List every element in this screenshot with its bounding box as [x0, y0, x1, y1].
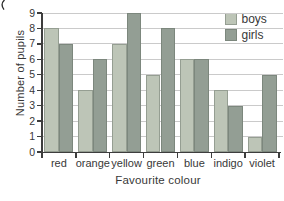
- bar-girls-orange: [93, 59, 108, 152]
- legend-swatch-girls: [225, 29, 237, 41]
- x-axis-title: Favourite colour: [42, 174, 274, 186]
- y-tick-label-4: 4: [16, 84, 35, 97]
- y-tick-1: [37, 136, 42, 137]
- y-tick-4: [37, 90, 42, 91]
- bar-boys-blue: [180, 59, 195, 152]
- bar-boys-yellow: [112, 44, 127, 152]
- y-tick-3: [37, 105, 42, 106]
- y-tick-5: [37, 74, 42, 75]
- legend-item-boys: boys: [225, 13, 267, 25]
- y-tick-label-1: 1: [16, 130, 35, 143]
- y-tick-8: [37, 28, 42, 29]
- gridline-9: [42, 13, 283, 14]
- bar-boys-indigo: [214, 90, 229, 152]
- cropped-glyph-mark: [0, 0, 7, 11]
- y-tick-label-9: 9: [16, 7, 35, 20]
- legend-label-girls: girls: [242, 29, 264, 41]
- y-tick-6: [37, 59, 42, 60]
- bar-girls-indigo: [228, 106, 243, 152]
- y-tick-2: [37, 120, 42, 121]
- y-tick-9: [37, 12, 42, 13]
- y-tick-label-5: 5: [16, 68, 35, 81]
- bar-girls-red: [59, 44, 74, 152]
- y-axis-line: [41, 13, 43, 154]
- category-label-violet: violet: [236, 157, 284, 169]
- y-tick-label-3: 3: [16, 99, 35, 112]
- legend-item-girls: girls: [225, 29, 264, 41]
- y-tick-7: [37, 43, 42, 44]
- y-tick-label-2: 2: [16, 115, 35, 128]
- legend-label-boys: boys: [242, 13, 267, 25]
- y-tick-label-8: 8: [16, 22, 35, 35]
- bar-girls-green: [161, 28, 176, 152]
- bar-girls-violet: [262, 75, 277, 152]
- legend-swatch-boys: [225, 13, 237, 25]
- bar-boys-orange: [78, 90, 93, 152]
- bar-boys-green: [146, 75, 161, 152]
- bar-boys-red: [44, 28, 59, 152]
- bar-girls-yellow: [127, 13, 142, 152]
- bar-chart: Number of pupils Favourite colour boysgi…: [0, 0, 284, 201]
- bar-boys-violet: [248, 137, 263, 152]
- bar-girls-blue: [194, 59, 209, 152]
- y-tick-label-6: 6: [16, 53, 35, 66]
- y-tick-label-7: 7: [16, 37, 35, 50]
